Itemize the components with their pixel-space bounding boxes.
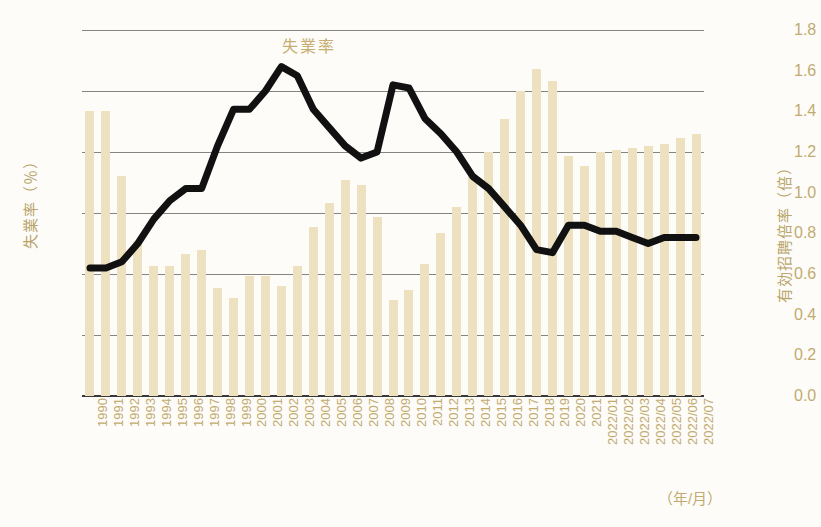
- x-tick-label: 2001: [270, 398, 285, 427]
- x-tick-label: 2006: [350, 398, 365, 427]
- plot-area: 0.01.02.03.04.05.06.0 0.00.20.40.60.81.0…: [82, 30, 704, 396]
- x-tick-label: 2008: [382, 398, 397, 427]
- y-tick-right: 0.8: [794, 225, 821, 241]
- x-tick-label: 1997: [207, 398, 222, 427]
- x-tick-label: 1992: [127, 398, 142, 427]
- x-tick-label: 2011: [430, 398, 445, 426]
- x-axis-caption: （年/月）: [658, 487, 722, 508]
- x-tick-label: 2009: [398, 398, 413, 427]
- y-tick-right: 0.2: [794, 347, 821, 363]
- x-tick-label: 2022/04: [653, 398, 668, 445]
- x-tick-label: 2022/02: [621, 398, 636, 445]
- x-tick-label: 2015: [494, 398, 509, 427]
- x-tick-label: 1999: [239, 398, 254, 427]
- x-tick-label: 2022/05: [669, 398, 684, 445]
- chart-title: 失業率: [282, 33, 336, 57]
- x-tick-label: 2003: [302, 398, 317, 427]
- x-tick-label: 1993: [143, 398, 158, 427]
- x-tick-label: 2005: [334, 398, 349, 427]
- x-tick-label: 2016: [510, 398, 525, 427]
- x-tick-label: 2021: [589, 398, 604, 427]
- x-tick-label: 1990: [95, 398, 110, 427]
- x-tick-label: 2007: [366, 398, 381, 427]
- y-tick-right: 1.4: [794, 103, 821, 119]
- x-tick-label: 1995: [175, 398, 190, 427]
- y-tick-right: 1.8: [794, 22, 821, 38]
- y-tick-right: 1.2: [794, 144, 821, 160]
- unemployment-line: [90, 67, 696, 268]
- x-tick-label: 2022/06: [685, 398, 700, 445]
- y-tick-right: 1.6: [794, 63, 821, 79]
- x-tick-label: 2004: [318, 398, 333, 427]
- x-tick-label: 2013: [462, 398, 477, 427]
- x-tick-label: 1994: [159, 398, 174, 427]
- x-tick-label: 2012: [446, 398, 461, 427]
- x-tick-label: 1991: [111, 398, 126, 427]
- x-tick-label: 2022/07: [701, 398, 716, 445]
- x-tick-label: 1998: [223, 398, 238, 427]
- y-axis-right-title: 有効招聘倍率（倍）: [773, 136, 794, 326]
- y-tick-right: 0.6: [794, 266, 821, 282]
- x-tick-label: 2014: [478, 398, 493, 427]
- x-tick-label: 2022/03: [637, 398, 652, 445]
- x-tick-label: 2002: [286, 398, 301, 427]
- x-tick-label: 1996: [191, 398, 206, 427]
- line-series: [82, 30, 704, 396]
- x-tick-label: 2010: [414, 398, 429, 427]
- y-tick-right: 1.0: [794, 185, 821, 201]
- x-tick-label: 2022/01: [605, 398, 620, 445]
- x-tick-label: 2020: [573, 398, 588, 427]
- x-tick-label: 2017: [526, 398, 541, 427]
- x-tick-label: 2019: [557, 398, 572, 427]
- y-axis-left-title: 失業率（％）: [19, 106, 40, 296]
- x-tick-label: 2000: [254, 398, 269, 427]
- x-axis-labels: 1990199119921993199419951996199719981999…: [82, 398, 704, 498]
- y-tick-right: 0.4: [794, 307, 821, 323]
- y-tick-right: 0.0: [794, 388, 821, 404]
- x-tick-label: 2018: [542, 398, 557, 427]
